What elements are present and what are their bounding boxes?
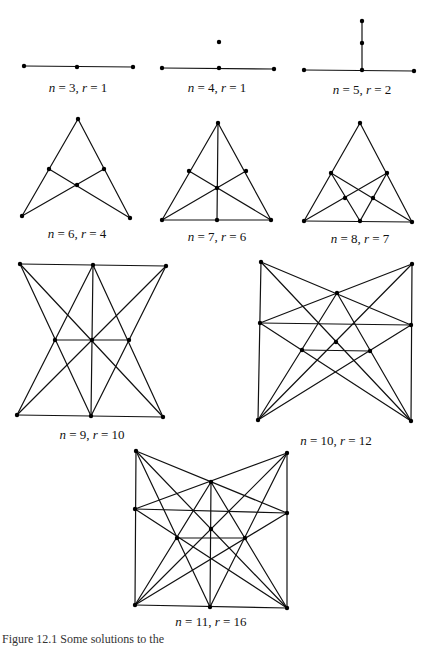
diagram-n5 <box>302 19 416 73</box>
point-dot <box>47 167 51 171</box>
point-dot <box>258 321 262 325</box>
line-segment <box>411 264 412 421</box>
point-dot <box>409 323 413 327</box>
point-dot <box>127 338 131 342</box>
diagram-label-n7: n = 7, r = 6 <box>188 229 247 245</box>
point-dot <box>371 196 375 200</box>
line-segment <box>258 293 337 420</box>
point-dot <box>22 64 26 68</box>
point-dot <box>410 262 414 266</box>
point-dot <box>256 418 260 422</box>
point-dot <box>244 169 248 173</box>
point-dot <box>215 186 219 190</box>
point-dot <box>272 67 276 71</box>
line-segment <box>258 262 261 420</box>
point-dot <box>15 413 19 417</box>
line-segment <box>136 451 210 607</box>
point-dot <box>343 196 347 200</box>
diagram-n10 <box>256 260 414 423</box>
point-dot <box>133 603 137 607</box>
diagram-n4 <box>160 40 276 71</box>
diagram-n11 <box>133 449 289 610</box>
line-segment <box>337 293 411 421</box>
point-dot <box>18 262 22 266</box>
point-dot <box>75 65 79 69</box>
line-segment <box>217 123 218 220</box>
point-dot <box>329 171 333 175</box>
point-dot <box>300 348 304 352</box>
diagram-label-n8: n = 8, r = 7 <box>331 231 390 247</box>
line-segment <box>162 171 246 220</box>
point-dot <box>90 338 94 342</box>
diagram-n7 <box>160 121 273 222</box>
point-dot <box>216 121 220 125</box>
line-segment <box>211 482 287 608</box>
line-segment <box>22 169 104 216</box>
point-dot <box>102 167 106 171</box>
point-dot <box>209 480 213 484</box>
point-dot <box>302 219 306 223</box>
point-dot <box>335 291 339 295</box>
point-dot <box>285 511 289 515</box>
point-dot <box>368 349 372 353</box>
line-segment <box>302 350 370 351</box>
line-segment <box>304 70 414 71</box>
point-dot <box>215 218 219 222</box>
diagram-label-n4: n = 4, r = 1 <box>188 80 247 96</box>
line-segment <box>260 323 411 325</box>
diagram-label-n10: n = 10, r = 12 <box>300 433 372 449</box>
point-dot <box>410 220 414 224</box>
line-segment <box>135 482 211 605</box>
point-dot <box>208 605 212 609</box>
point-dot <box>409 419 413 423</box>
point-dot <box>259 260 263 264</box>
point-dot <box>89 414 93 418</box>
point-dot <box>133 507 137 511</box>
point-dot <box>160 218 164 222</box>
point-dot <box>360 68 364 72</box>
point-dot <box>285 451 289 455</box>
point-dot <box>160 66 164 70</box>
diagram-n3 <box>22 64 135 69</box>
point-dot <box>164 264 168 268</box>
point-dot <box>243 536 247 540</box>
diagram-label-n9: n = 9, r = 10 <box>59 427 124 443</box>
point-dot <box>175 536 179 540</box>
diagram-n9 <box>15 262 168 419</box>
point-dot <box>217 66 221 70</box>
point-dot <box>302 68 306 72</box>
point-dot <box>91 263 95 267</box>
point-dot <box>269 218 273 222</box>
diagram-label-n11: n = 11, r = 16 <box>175 614 246 630</box>
figure-caption: Figure 12.1 Some solutions to the <box>2 632 164 647</box>
diagram-n6 <box>20 117 132 220</box>
line-segment <box>210 453 287 607</box>
diagram-label-n6: n = 6, r = 4 <box>48 226 107 242</box>
point-dot <box>128 216 132 220</box>
diagram-label-n3: n = 3, r = 1 <box>49 80 108 96</box>
point-dot <box>360 19 364 23</box>
point-dot <box>360 41 364 45</box>
point-dot <box>358 121 362 125</box>
diagram-label-n5: n = 5, r = 2 <box>333 82 392 98</box>
point-dot <box>161 415 165 419</box>
point-dot <box>285 606 289 610</box>
line-segment <box>135 451 136 605</box>
point-dot <box>412 69 416 73</box>
point-dot <box>209 527 213 531</box>
line-segment <box>210 482 211 607</box>
diagram-n8 <box>302 121 414 224</box>
point-dot <box>134 449 138 453</box>
point-dot <box>385 171 389 175</box>
point-dot <box>20 214 24 218</box>
point-dot <box>217 40 221 44</box>
point-dot <box>131 65 135 69</box>
point-dot <box>75 183 79 187</box>
point-dot <box>76 117 80 121</box>
line-segment <box>189 171 271 220</box>
point-dot <box>187 169 191 173</box>
point-dot <box>53 338 57 342</box>
point-dot <box>334 340 338 344</box>
point-dot <box>358 219 362 223</box>
